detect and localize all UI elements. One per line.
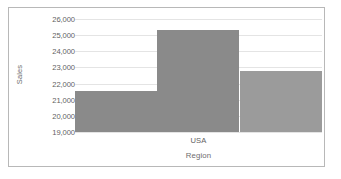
- bar[interactable]: [157, 30, 239, 133]
- bar-series: [75, 19, 322, 132]
- y-axis-tick-label: 26,000: [27, 15, 75, 24]
- y-axis-tick-label: 23,000: [27, 63, 75, 72]
- x-axis-category-label: USA: [75, 136, 322, 145]
- x-axis-title: Region: [75, 151, 322, 160]
- bar[interactable]: [75, 91, 157, 132]
- chart-frame: Sales 26,00025,00024,00023,00022,00021,0…: [8, 7, 325, 167]
- y-axis-tick-label: 20,000: [27, 111, 75, 120]
- gridline: [75, 132, 322, 133]
- bar[interactable]: [240, 71, 322, 132]
- y-axis-tick-label: 21,000: [27, 95, 75, 104]
- y-axis-tick-labels: 26,00025,00024,00023,00022,00021,00020,0…: [27, 19, 75, 132]
- y-axis-tick-label: 25,000: [27, 31, 75, 40]
- y-axis-tick-label: 22,000: [27, 79, 75, 88]
- plot-area: [75, 19, 322, 132]
- y-axis-tick-label: 19,000: [27, 128, 75, 137]
- y-axis-title: Sales: [15, 53, 24, 97]
- y-axis-tick-label: 24,000: [27, 47, 75, 56]
